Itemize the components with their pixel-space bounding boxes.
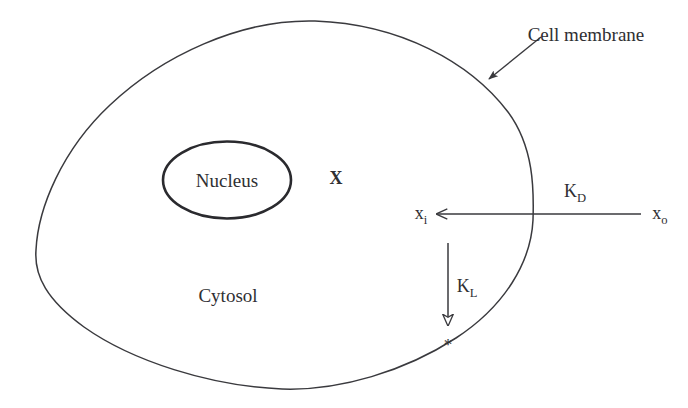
x-inside-subscript: i [424,213,428,227]
cell-membrane-outline [36,21,533,389]
nucleus-label: Nucleus [196,171,258,190]
metabolite-marker: * [444,335,453,354]
kl-base: K [457,276,470,296]
kl-subscript: L [470,286,478,300]
x-outside-label: xo [652,204,667,226]
x-outside-base: x [652,203,661,223]
figure-canvas: * Cell membrane Nucleus Cytosol X xi xo … [0,0,688,408]
cytosol-label: Cytosol [198,286,257,305]
species-x-label: X [330,169,343,187]
x-inside-label: xi [415,204,428,226]
rate-constant-kl-label: KL [457,277,478,299]
x-inside-base: x [415,203,424,223]
x-outside-subscript: o [661,213,667,227]
cell-membrane-label: Cell membrane [528,25,645,44]
kd-base: K [564,181,577,201]
kd-subscript: D [577,191,586,205]
rate-constant-kd-label: KD [564,182,586,204]
